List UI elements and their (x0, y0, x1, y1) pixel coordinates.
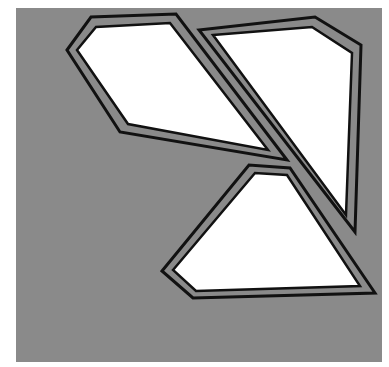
abstract-shapes-canvas (0, 0, 389, 367)
